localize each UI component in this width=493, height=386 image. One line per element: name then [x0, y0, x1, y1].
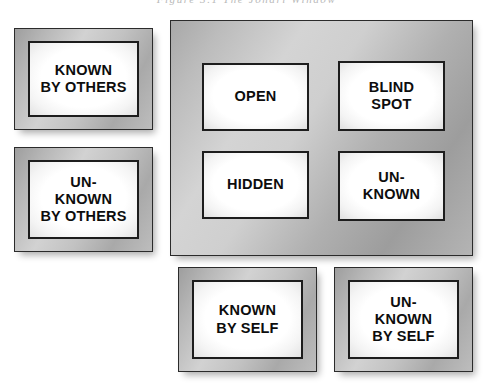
- column-label-unknown-by-self-panel: UN- KNOWN BY SELF: [348, 280, 459, 359]
- quadrant-hidden: HIDDEN: [202, 151, 309, 219]
- column-label-known-by-self-panel: KNOWN BY SELF: [192, 280, 303, 359]
- johari-window-diagram: Figure 3.1 The Johari Window KNOWN BY OT…: [0, 0, 493, 386]
- row-label-unknown-by-others-text: UN- KNOWN BY OTHERS: [40, 174, 126, 225]
- quadrant-blind-spot: BLIND SPOT: [338, 61, 445, 131]
- column-label-known-by-self: KNOWN BY SELF: [178, 267, 317, 372]
- column-label-known-by-self-text: KNOWN BY SELF: [216, 302, 278, 336]
- column-label-unknown-by-self: UN- KNOWN BY SELF: [334, 267, 473, 372]
- row-label-unknown-by-others-panel: UN- KNOWN BY OTHERS: [28, 160, 139, 239]
- quadrant-open: OPEN: [202, 63, 309, 131]
- quadrant-unknown-label: UN- KNOWN: [363, 169, 420, 203]
- column-label-unknown-by-self-text: UN- KNOWN BY SELF: [372, 294, 434, 345]
- row-label-unknown-by-others: UN- KNOWN BY OTHERS: [14, 147, 153, 252]
- row-label-known-by-others-panel: KNOWN BY OTHERS: [28, 41, 139, 117]
- row-label-known-by-others-text: KNOWN BY OTHERS: [40, 62, 126, 96]
- row-label-known-by-others: KNOWN BY OTHERS: [14, 28, 153, 130]
- figure-caption: Figure 3.1 The Johari Window: [0, 0, 493, 5]
- quadrant-unknown: UN- KNOWN: [338, 151, 445, 221]
- johari-grid-panel: OPEN BLIND SPOT HIDDEN UN- KNOWN: [170, 20, 473, 256]
- quadrant-open-label: OPEN: [235, 88, 277, 105]
- quadrant-hidden-label: HIDDEN: [227, 176, 284, 193]
- quadrant-blind-spot-label: BLIND SPOT: [369, 79, 414, 113]
